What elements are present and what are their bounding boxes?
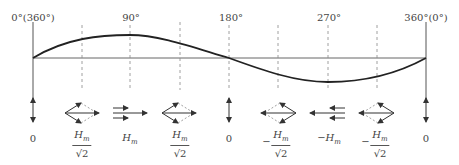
fraction-numerator: Hm: [271, 130, 290, 146]
fraction-denominator: √2: [72, 146, 91, 159]
fraction-numerator: Hm: [170, 130, 189, 146]
field-label-135: Hm √2: [170, 130, 189, 159]
angle-label-0: 0°(360°): [11, 12, 54, 23]
negative-sign: −: [361, 137, 369, 147]
vector-diagram-270: [310, 108, 345, 118]
vector-diagram-45: [65, 103, 99, 123]
angle-label-360: 360°(0°): [404, 12, 447, 23]
vector-diagram-225: [261, 103, 296, 123]
field-label-315: − Hm √2: [370, 130, 389, 159]
angle-label-180: 180°: [219, 12, 243, 23]
field-label-360: 0: [423, 133, 429, 144]
fraction-denominator: √2: [271, 146, 290, 159]
angle-label-90: 90°: [122, 12, 140, 23]
fraction-numerator: Hm: [72, 130, 91, 146]
fraction-denominator: √2: [170, 146, 189, 159]
negative-sign: −: [262, 137, 270, 147]
field-label-180: 0: [226, 133, 232, 144]
fraction-numerator: Hm: [370, 130, 389, 146]
vector-diagram-90: [113, 108, 147, 118]
fraction-denominator: √2: [370, 146, 389, 159]
angle-label-270: 270°: [317, 12, 341, 23]
vector-diagram-315: [359, 103, 394, 123]
field-label-0: 0: [30, 133, 36, 144]
field-label-45: Hm √2: [72, 130, 91, 159]
field-label-225: − Hm √2: [271, 130, 290, 159]
field-label-270: −Hm: [317, 132, 341, 146]
vector-diagram-135: [162, 103, 196, 123]
field-label-90: Hm: [122, 132, 137, 146]
